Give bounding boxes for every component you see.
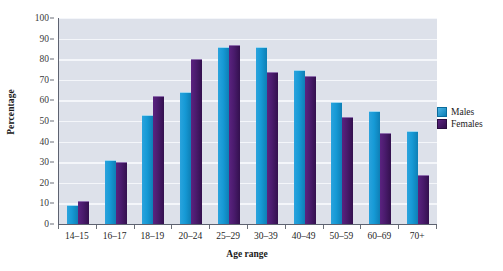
bar-group [172, 18, 210, 224]
y-tick-mark [50, 182, 54, 183]
x-tick-mark [436, 225, 437, 229]
legend-label: Females [451, 119, 483, 129]
y-tick-mark [50, 100, 54, 101]
plot-area [58, 18, 437, 225]
bar-females [380, 133, 391, 224]
x-tick-mark [134, 225, 135, 229]
bar-males [331, 102, 342, 224]
x-tick-mark [58, 225, 59, 229]
bar-females [418, 175, 429, 224]
y-axis-title-label: Percentage [6, 89, 16, 135]
bar-females [191, 59, 202, 224]
bar-group [361, 18, 399, 224]
bar-group [59, 18, 97, 224]
x-tick-mark [209, 225, 210, 229]
y-axis-title: Percentage [0, 0, 22, 224]
bar-chart-figure: Percentage 0102030405060708090100 14–151… [0, 0, 503, 271]
x-tick-label: 20–24 [171, 231, 209, 245]
y-tick-label: 60 [40, 95, 50, 105]
y-tick-mark [50, 38, 54, 39]
bar-females [305, 76, 316, 224]
y-tick-mark [50, 141, 54, 142]
bar-group [324, 18, 362, 224]
bar-males [105, 160, 116, 224]
y-axis-tick-labels: 0102030405060708090100 [22, 18, 54, 224]
x-tick-label: 25–29 [209, 231, 247, 245]
bar-group [210, 18, 248, 224]
bar-males [407, 131, 418, 224]
x-tick-label: 16–17 [96, 231, 134, 245]
y-tick-label: 50 [40, 116, 50, 126]
y-tick-label: 30 [40, 157, 50, 167]
legend-label: Males [451, 107, 474, 117]
bar-females [267, 72, 278, 224]
x-tick-mark [360, 225, 361, 229]
x-tick-mark [285, 225, 286, 229]
y-tick-label: 100 [35, 13, 49, 23]
bar-group [97, 18, 135, 224]
y-tick-mark [50, 18, 54, 19]
bar-females [78, 201, 89, 224]
x-tick-label: 60–69 [360, 231, 398, 245]
x-tick-label: 18–19 [134, 231, 172, 245]
y-tick-mark [50, 162, 54, 163]
x-tick-label: 50–59 [323, 231, 361, 245]
bars-layer [59, 18, 437, 224]
y-tick-label: 10 [40, 198, 50, 208]
y-tick-label: 90 [40, 34, 50, 44]
x-tick-mark [171, 225, 172, 229]
y-tick-mark [50, 203, 54, 204]
x-tick-mark [323, 225, 324, 229]
x-axis-title: Age range [58, 249, 436, 259]
x-tick-label: 30–39 [247, 231, 285, 245]
y-tick-mark [50, 59, 54, 60]
bar-group [399, 18, 437, 224]
y-tick-mark [50, 79, 54, 80]
bar-females [153, 96, 164, 224]
x-tick-label: 70+ [398, 231, 436, 245]
bar-group [135, 18, 173, 224]
x-tick-label: 14–15 [58, 231, 96, 245]
x-tick-mark [247, 225, 248, 229]
x-tick-label: 40–49 [285, 231, 323, 245]
bar-males [180, 92, 191, 224]
bar-males [218, 47, 229, 224]
x-tick-mark [96, 225, 97, 229]
bar-males [256, 47, 267, 224]
y-tick-label: 70 [40, 75, 50, 85]
chart-legend: MalesFemales [437, 107, 501, 131]
x-axis-tick-labels: 14–1516–1718–1920–2425–2930–3940–4950–59… [58, 231, 436, 245]
bar-males [294, 70, 305, 225]
males-swatch [437, 107, 447, 117]
bar-males [369, 111, 380, 224]
y-tick-mark [50, 121, 54, 122]
bar-group [248, 18, 286, 224]
bar-group [286, 18, 324, 224]
x-axis-tick-marks [58, 225, 436, 230]
bar-females [116, 162, 127, 224]
y-tick-label: 0 [44, 219, 49, 229]
bar-females [229, 45, 240, 224]
y-tick-mark [50, 224, 54, 225]
legend-item[interactable]: Males [437, 107, 501, 117]
y-tick-label: 20 [40, 178, 50, 188]
bar-males [142, 115, 153, 224]
x-tick-mark [398, 225, 399, 229]
females-swatch [437, 119, 447, 129]
y-tick-label: 40 [40, 137, 50, 147]
bar-males [67, 205, 78, 224]
y-tick-label: 80 [40, 54, 50, 64]
legend-item[interactable]: Females [437, 119, 501, 129]
bar-females [342, 117, 353, 224]
